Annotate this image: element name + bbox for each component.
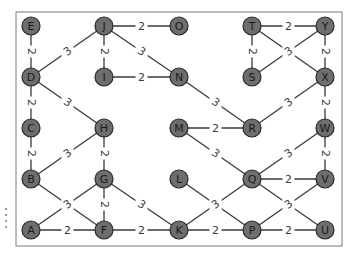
node-label: U	[321, 224, 329, 237]
edge-weight-label: 2	[25, 48, 38, 55]
edge-D-H: 3	[31, 77, 104, 128]
edge-weight-label: 2	[25, 150, 38, 157]
node-label: M	[174, 122, 184, 135]
node-label: N	[175, 71, 183, 84]
node-R: R	[243, 119, 261, 137]
edge-weight-label: 2	[285, 224, 292, 237]
node-H: H	[95, 119, 113, 137]
node-label: I	[102, 71, 105, 84]
edge-B-H: 3	[31, 128, 104, 179]
node-T: T	[243, 17, 261, 35]
node-label: A	[27, 224, 35, 237]
node-B: B	[22, 170, 40, 188]
node-label: G	[100, 173, 109, 186]
edge-D-J: 3	[31, 26, 104, 77]
edge-N-R: 3	[179, 77, 252, 128]
node-E: E	[22, 17, 40, 35]
edge-weight-label: 2	[285, 20, 292, 33]
edge-J-N: 3	[104, 26, 179, 77]
node-P: P	[243, 221, 261, 239]
node-label: H	[100, 122, 108, 135]
edge-G-K: 3	[104, 179, 179, 230]
node-J: J	[95, 17, 113, 35]
node-label: R	[248, 122, 256, 135]
edge-weight-label: 2	[212, 224, 219, 237]
edge-T-Y: 2	[252, 20, 325, 33]
node-O: O	[170, 17, 188, 35]
graph-diagram: 222332232323323223233322233223232332 EDC…	[0, 0, 356, 263]
node-U: U	[316, 221, 334, 239]
axis-tick-marks	[5, 208, 7, 228]
node-label: V	[321, 173, 329, 186]
node-I: I	[95, 68, 113, 86]
node-label: L	[176, 173, 183, 186]
edge-weight-label: 2	[98, 48, 111, 55]
node-label: O	[175, 20, 184, 33]
node-label: P	[249, 224, 256, 237]
node-label: F	[101, 224, 107, 237]
node-M: M	[170, 119, 188, 137]
node-label: X	[321, 71, 329, 84]
node-label: C	[27, 122, 35, 135]
edge-J-O: 2	[104, 20, 179, 33]
node-label: E	[28, 20, 35, 33]
node-K: K	[170, 221, 188, 239]
node-C: C	[22, 119, 40, 137]
edge-weight-label: 2	[138, 224, 145, 237]
node-label: B	[27, 173, 35, 186]
edge-weight-label: 2	[64, 224, 71, 237]
node-F: F	[95, 221, 113, 239]
node-label: T	[248, 20, 256, 33]
edge-A-F: 2	[31, 224, 104, 237]
node-label: Q	[248, 173, 257, 186]
edge-M-Q: 3	[179, 128, 252, 179]
edge-weight-label: 2	[246, 48, 259, 55]
edge-I-N: 2	[104, 71, 179, 84]
node-G: G	[95, 170, 113, 188]
edge-Q-W: 3	[252, 128, 325, 179]
node-label: W	[320, 122, 331, 135]
node-X: X	[316, 68, 334, 86]
edge-M-R: 2	[179, 122, 252, 135]
node-D: D	[22, 68, 40, 86]
edge-weight-label: 2	[138, 20, 145, 33]
node-label: K	[175, 224, 183, 237]
edge-weight-label: 2	[138, 71, 145, 84]
edge-weight-label: 2	[319, 99, 332, 106]
edge-weight-label: 2	[319, 48, 332, 55]
node-Y: Y	[316, 17, 334, 35]
node-label: D	[27, 71, 35, 84]
edge-F-K: 2	[104, 224, 179, 237]
edge-weight-label: 2	[98, 201, 111, 208]
node-A: A	[22, 221, 40, 239]
edge-weight-label: 2	[319, 150, 332, 157]
edge-weight-label: 2	[25, 99, 38, 106]
node-V: V	[316, 170, 334, 188]
node-Q: Q	[243, 170, 261, 188]
edge-P-U: 2	[252, 224, 325, 237]
edge-R-X: 3	[252, 77, 325, 128]
node-label: J	[101, 20, 105, 33]
node-S: S	[243, 68, 261, 86]
edge-K-P: 2	[179, 224, 252, 237]
edge-Q-V: 2	[252, 173, 325, 186]
node-N: N	[170, 68, 188, 86]
node-L: L	[170, 170, 188, 188]
node-label: Y	[321, 20, 329, 33]
node-W: W	[316, 119, 334, 137]
edge-weight-label: 2	[285, 173, 292, 186]
node-label: S	[249, 71, 256, 84]
edge-weight-label: 2	[98, 150, 111, 157]
edge-weight-label: 2	[212, 122, 219, 135]
